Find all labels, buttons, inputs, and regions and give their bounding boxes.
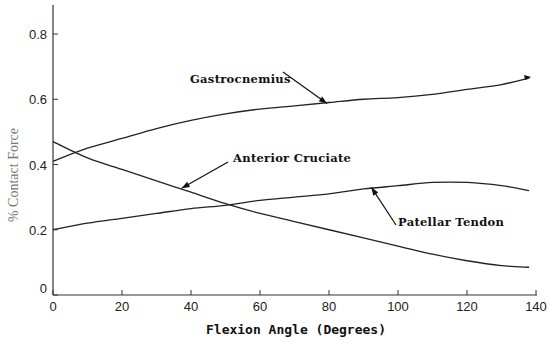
x-ticks: 020406080100120140 xyxy=(49,290,546,314)
x-tick-label: 40 xyxy=(184,299,198,314)
x-tick-label: 80 xyxy=(322,299,336,314)
x-tick-label: 120 xyxy=(456,299,478,314)
arrow-gastrocnemius xyxy=(283,72,327,104)
x-tick-label: 0 xyxy=(49,299,56,314)
y-axis-title: % Contact Force xyxy=(6,128,21,222)
annotation-anterior-cruciate: Anterior Cruciate xyxy=(232,151,351,165)
x-tick-label: 20 xyxy=(115,299,129,314)
y-tick-label: 0.2 xyxy=(29,223,47,238)
y-tick-label: 0 xyxy=(40,281,47,296)
axes xyxy=(53,5,537,295)
annotation-gastrocnemius: Gastrocnemius xyxy=(190,72,291,86)
y-tick-label: 0.8 xyxy=(29,27,47,42)
arrow-patellar-tendon-head xyxy=(371,187,378,195)
annotations: Gastrocnemius Anterior Cruciate Patellar… xyxy=(182,72,531,229)
curves xyxy=(53,78,529,267)
x-tick-label: 100 xyxy=(387,299,409,314)
line-chart: 020406080100120140 00.20.40.60.8 Gastroc… xyxy=(0,0,549,348)
x-tick-label: 140 xyxy=(525,299,547,314)
y-tick-label: 0.4 xyxy=(29,158,47,173)
y-tick-label: 0.6 xyxy=(29,92,47,107)
x-tick-label: 60 xyxy=(253,299,267,314)
x-axis-title: Flexion Angle (Degrees) xyxy=(206,322,386,337)
arrow-anterior-cruciate-head xyxy=(182,182,190,189)
gastrocnemius-end-arrowhead xyxy=(524,75,531,80)
series-gastrocnemius xyxy=(53,78,529,161)
annotation-patellar-tendon: Patellar Tendon xyxy=(398,215,504,229)
